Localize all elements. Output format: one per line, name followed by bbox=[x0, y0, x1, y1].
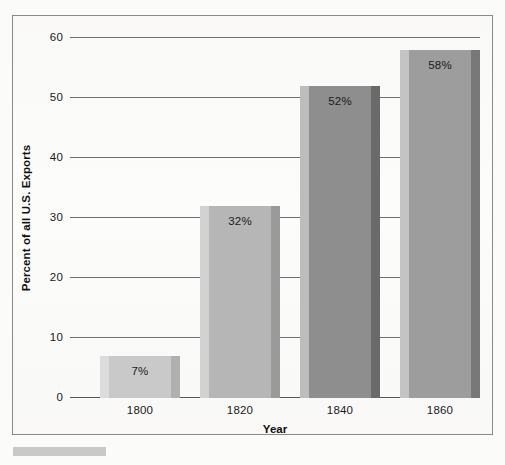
x-tick-label-1820: 1820 bbox=[200, 404, 280, 416]
bar-1800-left-edge bbox=[100, 356, 109, 398]
bar-1860-right-edge bbox=[471, 50, 480, 398]
y-tick-label-20: 20 bbox=[50, 271, 63, 283]
bar-1860-left-edge bbox=[400, 50, 409, 398]
bar-1800-right-edge bbox=[171, 356, 180, 398]
bar-1820[interactable]: 32% bbox=[200, 206, 280, 398]
y-tick-label-50: 50 bbox=[50, 91, 63, 103]
y-tick-label-10: 10 bbox=[50, 331, 63, 343]
x-axis-title: Year bbox=[70, 423, 480, 435]
bar-group-1840: 52% bbox=[300, 38, 380, 398]
y-axis-title-text: Percent of all U.S. Exports bbox=[20, 145, 32, 292]
bar-1800-value-label: 7% bbox=[100, 365, 180, 377]
bar-group-1820: 32% bbox=[200, 38, 280, 398]
bar-1840-right-edge bbox=[371, 86, 380, 398]
bar-1800[interactable]: 7% bbox=[100, 356, 180, 398]
bar-1860-face bbox=[400, 50, 480, 398]
bar-1820-left-edge bbox=[200, 206, 209, 398]
caption-placeholder-bar bbox=[13, 447, 106, 456]
bar-1820-value-label: 32% bbox=[200, 215, 280, 227]
y-axis-title: Percent of all U.S. Exports bbox=[18, 38, 34, 398]
bar-1800-face bbox=[100, 356, 180, 398]
bar-1840-value-label: 52% bbox=[300, 95, 380, 107]
bar-1840[interactable]: 52% bbox=[300, 86, 380, 398]
bar-1840-left-edge bbox=[300, 86, 309, 398]
bar-1860[interactable]: 58% bbox=[400, 50, 480, 398]
bar-group-1860: 58% bbox=[400, 38, 480, 398]
bar-1840-face bbox=[300, 86, 380, 398]
y-tick-label-0: 0 bbox=[56, 391, 63, 403]
x-tick-label-1860: 1860 bbox=[400, 404, 480, 416]
bar-group-1800: 7% bbox=[100, 38, 180, 398]
bar-1860-value-label: 58% bbox=[400, 59, 480, 71]
plot-area: 60 50 40 30 20 10 0 7% 32% bbox=[70, 38, 480, 398]
bar-1820-face bbox=[200, 206, 280, 398]
x-tick-label-1840: 1840 bbox=[300, 404, 380, 416]
x-tick-label-1800: 1800 bbox=[100, 404, 180, 416]
y-tick-label-60: 60 bbox=[50, 31, 63, 43]
y-tick-label-40: 40 bbox=[50, 151, 63, 163]
y-tick-label-30: 30 bbox=[50, 211, 63, 223]
bar-1820-right-edge bbox=[271, 206, 280, 398]
